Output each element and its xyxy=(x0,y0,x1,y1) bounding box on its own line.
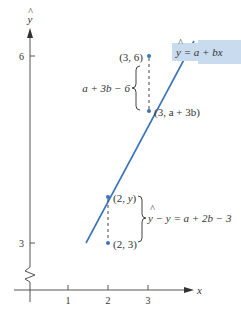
lower-residual-brace xyxy=(138,196,146,242)
lower-residual-annotation: y − y = a + 2b − 3 xyxy=(147,212,232,224)
point-3-a3b xyxy=(147,109,151,113)
regression-residual-diagram: ^ y 6 3 x 1 2 3 ^ y = a + bx (3, 6) (3, … xyxy=(0,0,241,315)
y-tick-6: 6 xyxy=(19,51,24,62)
x-tick-3: 3 xyxy=(146,295,151,306)
x-tick-2: 2 xyxy=(106,295,111,306)
x-axis-label: x xyxy=(196,284,202,296)
x-axis-arrow-icon xyxy=(184,287,194,293)
x-tick-1: 1 xyxy=(66,295,71,306)
label-point-2-yhat: (2, y) xyxy=(113,192,137,205)
upper-residual-annotation: a + 3b − 6 xyxy=(82,82,130,94)
regression-label: ^ y = a + bx xyxy=(172,37,241,64)
axis-break-icon xyxy=(25,262,35,302)
x-axis: x 1 2 3 xyxy=(14,284,202,306)
regression-label-text: y = a + bx xyxy=(175,46,223,58)
y-axis-label: y xyxy=(27,13,33,25)
upper-residual-brace xyxy=(132,66,140,110)
point-3-6 xyxy=(147,54,151,58)
label-point-3-a3b: (3, a + 3b) xyxy=(154,106,200,119)
point-2-yhat xyxy=(106,195,110,199)
y-tick-3: 3 xyxy=(19,238,24,249)
y-axis-arrow-icon xyxy=(27,28,33,38)
label-point-3-6: (3, 6) xyxy=(119,51,143,64)
point-2-3 xyxy=(106,241,110,245)
y-axis: ^ y 6 3 xyxy=(19,6,35,302)
label-point-2-3: (2, 3) xyxy=(113,238,137,251)
